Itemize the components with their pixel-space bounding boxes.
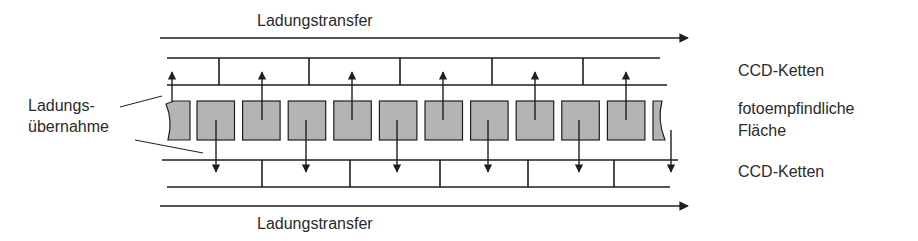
bottom-ccd-chain-label: CCD-Ketten [738,163,824,181]
photosensitive-area-label-line1: fotoempfindliche [738,100,855,118]
pixel-cell-partial-left [166,101,190,140]
pixel-cell [379,101,417,140]
photosensitive-area-label-line2: Fläche [738,122,786,140]
pixel-cell-partial-right [653,101,665,140]
bottom-transfer-label: Ladungstransfer [257,215,373,233]
pixel-cell [471,101,509,140]
leader-line-lower [135,140,203,153]
pixel-cell [425,101,463,140]
charge-takeover-label-line1: Ladungs- [28,97,95,115]
pixel-cell [288,101,326,140]
leader-line-upper [120,96,162,107]
top-transfer-label: Ladungstransfer [257,12,373,30]
top-ccd-chain-label: CCD-Ketten [738,62,824,80]
ccd-diagram [0,0,918,241]
charge-takeover-label-line2: übernahme [28,118,109,136]
pixel-cell [562,101,600,140]
